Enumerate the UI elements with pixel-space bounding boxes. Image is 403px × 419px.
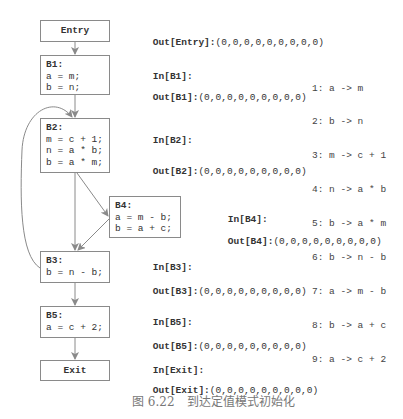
annotation-label: Out[B5]: bbox=[153, 341, 199, 352]
definition-item: 6: b -> n - b bbox=[312, 252, 386, 263]
block-title: B4: bbox=[115, 200, 175, 212]
definition-item: 1: a -> m bbox=[312, 83, 386, 94]
annotation-value: (0,0,0,0,0,0,0,0,0) bbox=[198, 166, 306, 177]
statement: b = n; bbox=[46, 82, 104, 94]
block-b2: B2: m = c + 1; n = a * b; b = a * m; bbox=[40, 118, 110, 173]
block-title: B1: bbox=[46, 59, 104, 71]
definition-item: 2: b -> n bbox=[312, 116, 386, 127]
block-b4: B4: a = m - b; b = a + c; bbox=[109, 196, 181, 238]
annotation-label: Out[B3]: bbox=[153, 286, 199, 297]
annotation-label: Out[B4]: bbox=[228, 236, 274, 247]
annotation-label: In[B4]: bbox=[228, 214, 268, 225]
statement: b = n - b; bbox=[46, 267, 104, 279]
annotation-value: (0,0,0,0,0,0,0,0,0) bbox=[198, 92, 306, 103]
figure-caption: 图 6.22 到达定值模式初始化 bbox=[132, 392, 295, 409]
annotation-out-b2: Out[B2]:(0,0,0,0,0,0,0,0,0) bbox=[130, 155, 307, 188]
definition-item: 9: a -> c + 2 bbox=[312, 354, 386, 365]
annotation-out-entry: Out[Entry]:(0,0,0,0,0,0,0,0,0) bbox=[130, 26, 324, 59]
definition-item: 4: n -> a * b bbox=[312, 184, 386, 195]
edge-b2-b4 bbox=[77, 173, 108, 216]
block-title: B2: bbox=[46, 122, 104, 134]
statement: b = a * m; bbox=[46, 157, 104, 169]
block-b3: B3: b = n - b; bbox=[40, 251, 110, 283]
annotation-out-b3: Out[B3]:(0,0,0,0,0,0,0,0,0) bbox=[130, 275, 307, 308]
definition-item: 3: m -> c + 1 bbox=[312, 150, 386, 161]
statement: a = c + 2; bbox=[46, 322, 104, 334]
annotation-value: (0,0,0,0,0,0,0,0,0) bbox=[216, 37, 324, 48]
block-b1: B1: a = m; b = n; bbox=[40, 55, 110, 95]
statement: n = a * b; bbox=[46, 145, 104, 157]
annotation-label: Out[Entry]: bbox=[153, 37, 216, 48]
definition-list: 1: a -> m 2: b -> n 3: m -> c + 1 4: n -… bbox=[312, 60, 386, 388]
annotation-value: (0,0,0,0,0,0,0,0,0) bbox=[198, 286, 306, 297]
statement: a = m; bbox=[46, 71, 104, 83]
statement: a = m - b; bbox=[115, 212, 175, 224]
block-entry: Entry bbox=[40, 20, 110, 42]
definition-item: 7: a -> m - b bbox=[312, 286, 386, 297]
block-title: B3: bbox=[46, 255, 104, 267]
definition-item: 5: b -> a * m bbox=[312, 218, 386, 229]
flow-graph-figure: Entry B1: a = m; b = n; B2: m = c + 1; n… bbox=[0, 0, 403, 419]
annotation-value: (0,0,0,0,0,0,0,0,0) bbox=[198, 341, 306, 352]
annotation-label: In[B2]: bbox=[153, 135, 193, 146]
statement: b = a + c; bbox=[115, 223, 175, 235]
annotation-in-b2: In[B2]: bbox=[130, 124, 193, 157]
block-title: B5: bbox=[46, 310, 104, 322]
annotation-out-b1: Out[B1]:(0,0,0,0,0,0,0,0,0) bbox=[130, 81, 307, 114]
block-b5: B5: a = c + 2; bbox=[40, 306, 110, 338]
definition-item: 8: b -> a + c bbox=[312, 320, 386, 331]
annotation-label: Out[B2]: bbox=[153, 166, 199, 177]
annotation-label: In[B3]: bbox=[153, 262, 193, 273]
annotation-label: Out[B1]: bbox=[153, 92, 199, 103]
edge-b4-b3 bbox=[78, 219, 109, 250]
annotation-label: In[B5]: bbox=[153, 317, 193, 328]
statement: m = c + 1; bbox=[46, 134, 104, 146]
block-exit: Exit bbox=[40, 360, 110, 381]
